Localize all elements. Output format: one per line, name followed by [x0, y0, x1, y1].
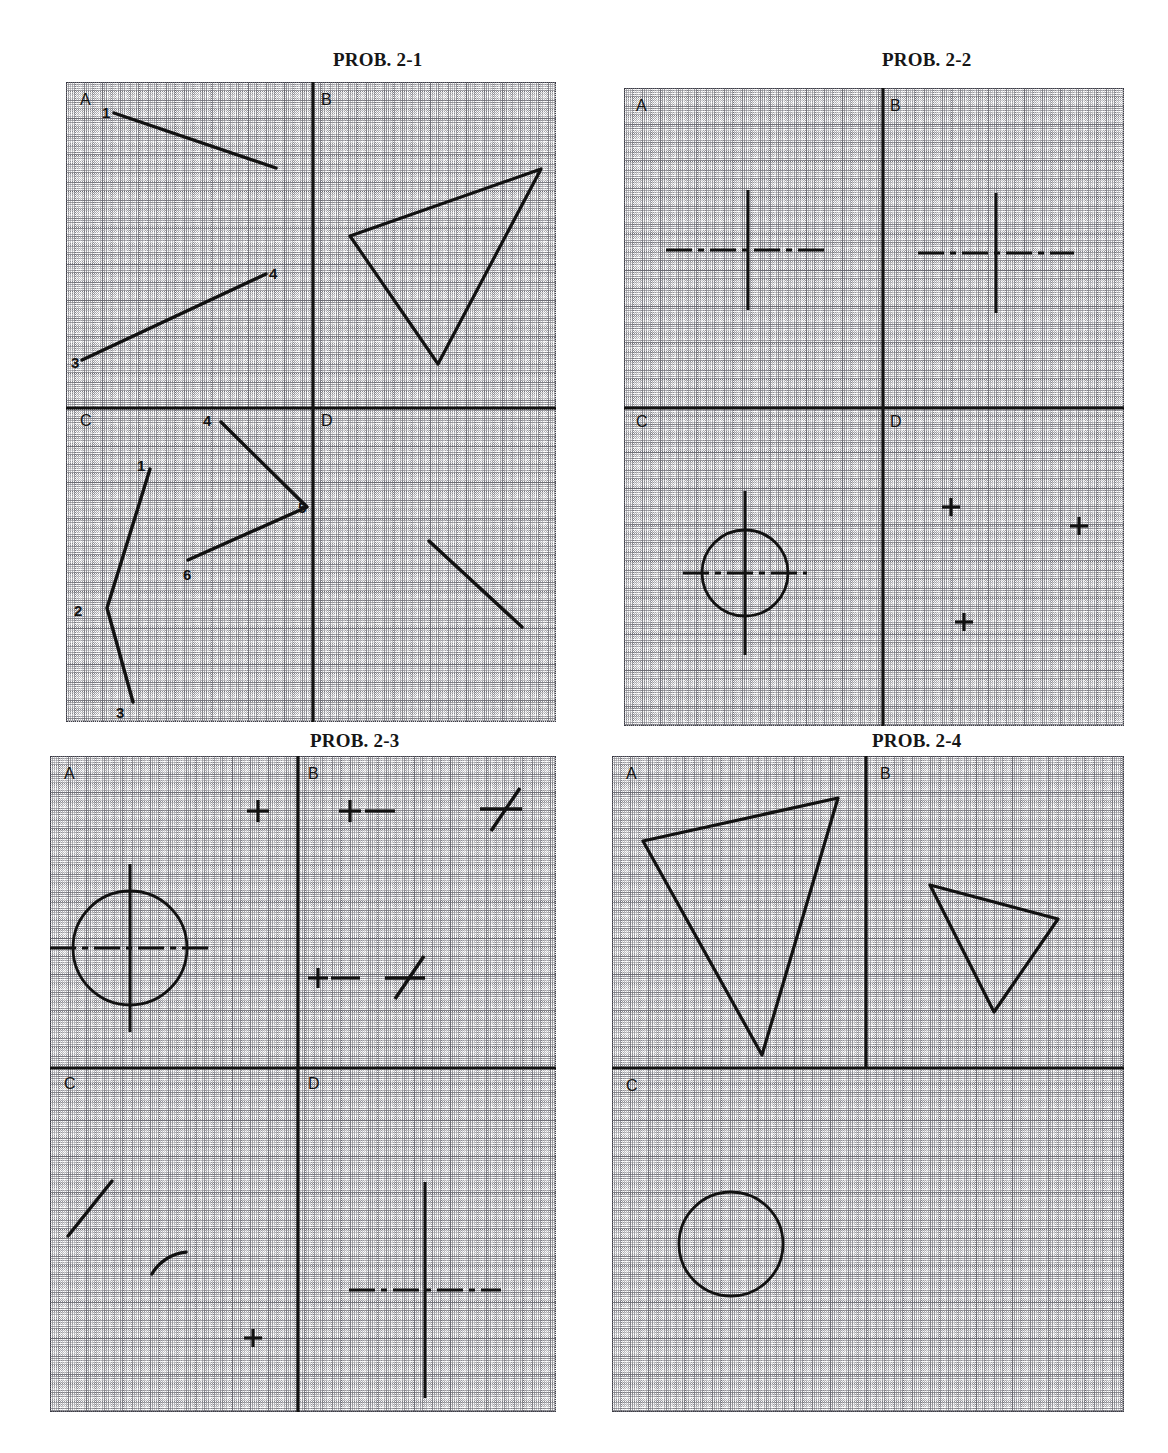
plus-b-2	[308, 968, 328, 988]
point-label: 4	[203, 413, 211, 428]
quadrant-label-c: C	[626, 1078, 638, 1094]
quadrant-label-c: C	[64, 1076, 76, 1092]
drawing-layer	[50, 756, 556, 1412]
center-mark-b	[918, 193, 1074, 313]
quadrant-label-a: A	[80, 92, 91, 108]
diag-line-c	[68, 1181, 112, 1236]
line-1-2	[114, 113, 276, 168]
polyline-4-5-6	[188, 422, 307, 560]
quadrant-label-b: B	[880, 766, 891, 782]
point-label: 5	[298, 500, 306, 515]
quadrant-label-a: A	[64, 766, 75, 782]
line-1-2-path	[114, 113, 276, 168]
diag-line-c-path	[68, 1181, 112, 1236]
point-label: 1	[137, 458, 145, 473]
point-label: 4	[269, 266, 277, 281]
panel-title-prob-2-3: PROB. 2-3	[310, 730, 399, 752]
quadrant-label-d: D	[308, 1076, 320, 1092]
quadrant-label-d: D	[890, 414, 902, 430]
triangle-b-path	[930, 885, 1058, 1012]
panel-title-prob-2-1: PROB. 2-1	[333, 49, 422, 71]
quadrant-label-a: A	[636, 98, 647, 114]
line-3-4-path	[82, 274, 266, 360]
triangle-b	[350, 169, 541, 364]
line-3-4	[82, 274, 266, 360]
drawing-layer	[624, 88, 1124, 726]
circle-c	[679, 1192, 783, 1296]
quadrant-label-b: B	[890, 98, 901, 114]
point-label: 2	[74, 603, 82, 618]
arc-c	[152, 1252, 186, 1274]
grid-panel-prob-2-1: ABCD143415623	[66, 82, 556, 722]
quadrant-label-d: D	[321, 413, 333, 429]
triangle-b	[930, 885, 1058, 1012]
point-label: 6	[183, 567, 191, 582]
center-mark-d	[349, 1182, 501, 1398]
triangle-a-path	[643, 798, 838, 1055]
triangle-a	[643, 798, 838, 1055]
quadrant-label-b: B	[321, 92, 332, 108]
arc-c-path	[152, 1252, 186, 1274]
plus-d-3	[955, 613, 973, 631]
circle-c-path	[679, 1192, 783, 1296]
point-label: 3	[71, 355, 79, 370]
polyline-1-2-3-path	[107, 469, 150, 702]
triangle-b-path	[350, 169, 541, 364]
plus-a-1	[247, 800, 269, 822]
center-mark-a	[666, 190, 830, 310]
polyline-1-2-3	[107, 469, 150, 702]
plus-d-1	[942, 498, 960, 516]
panel-title-prob-2-2: PROB. 2-2	[882, 49, 971, 71]
quadrant-label-b: B	[308, 766, 319, 782]
point-label: 3	[116, 705, 124, 720]
panel-title-prob-2-4: PROB. 2-4	[872, 730, 961, 752]
line-d-path	[429, 541, 522, 627]
plus-d-2	[1070, 517, 1088, 535]
slant-cross-b-2	[385, 956, 425, 999]
quadrant-label-c: C	[636, 414, 648, 430]
polyline-4-5-6-path	[188, 422, 307, 560]
line-d	[429, 541, 522, 627]
quadrant-label-a: A	[626, 766, 637, 782]
drawing-layer	[66, 82, 556, 722]
grid-panel-prob-2-2: ABCD	[624, 88, 1124, 726]
worksheet-sheet: PROB. 2-1ABCD143415623PROB. 2-2ABCDPROB.…	[0, 0, 1168, 1453]
plus-c-1	[244, 1329, 262, 1347]
quadrant-label-c: C	[80, 413, 92, 429]
grid-panel-prob-2-4: ABC	[612, 756, 1124, 1412]
plus-b-1	[339, 800, 361, 822]
point-label: 1	[102, 105, 110, 120]
grid-panel-prob-2-3: ABCD	[50, 756, 556, 1412]
drawing-layer	[612, 756, 1124, 1412]
slant-cross-b-1	[480, 788, 522, 831]
